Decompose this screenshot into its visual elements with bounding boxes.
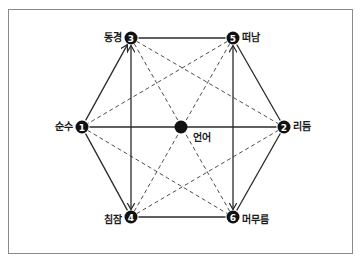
node-1: 1 bbox=[76, 121, 89, 134]
node-number: 4 bbox=[128, 213, 134, 223]
node-label-3: 동경 bbox=[104, 32, 122, 44]
node-label-4: 침잠 bbox=[104, 214, 122, 226]
node-2: 2 bbox=[278, 121, 291, 134]
solid-edge-5-2 bbox=[237, 45, 281, 121]
node-label-5: 떠남 bbox=[242, 32, 260, 44]
node-number: 2 bbox=[281, 123, 287, 133]
node-5: 5 bbox=[227, 32, 240, 45]
node-3: 3 bbox=[125, 32, 138, 45]
center-label: 언어 bbox=[193, 132, 211, 144]
node-label-1: 순수 bbox=[55, 121, 73, 133]
solid-edge-2-6 bbox=[237, 134, 281, 211]
center-node bbox=[175, 121, 188, 134]
node-number: 1 bbox=[79, 123, 85, 133]
node-label-6: 머무름 bbox=[242, 214, 269, 226]
solid-edge-1-3 bbox=[86, 45, 128, 121]
node-number: 5 bbox=[230, 34, 236, 44]
node-6: 6 bbox=[227, 211, 240, 224]
node-number: 6 bbox=[230, 213, 236, 223]
node-number: 3 bbox=[128, 34, 134, 44]
solid-edge-4-1 bbox=[86, 134, 128, 211]
node-4: 4 bbox=[125, 211, 138, 224]
node-label-2: 리듬 bbox=[293, 121, 311, 133]
